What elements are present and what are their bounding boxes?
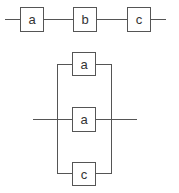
- series-block-3: c: [128, 8, 151, 32]
- series-block-2-label: b: [81, 12, 88, 27]
- block-diagram-canvas: a b c a a: [0, 0, 179, 193]
- series-block-2: b: [74, 8, 97, 32]
- parallel-system: a a c: [33, 53, 137, 186]
- parallel-block-1-label: a: [80, 57, 88, 72]
- series-block-1: a: [21, 8, 44, 32]
- series-block-3-label: c: [136, 12, 143, 27]
- parallel-block-3-label: c: [81, 167, 88, 182]
- parallel-block-3: c: [73, 163, 96, 186]
- parallel-block-1: a: [73, 53, 96, 76]
- series-system: a b c: [5, 8, 166, 32]
- parallel-block-2: a: [73, 108, 96, 132]
- series-block-1-label: a: [28, 12, 36, 27]
- parallel-block-2-label: a: [80, 112, 88, 127]
